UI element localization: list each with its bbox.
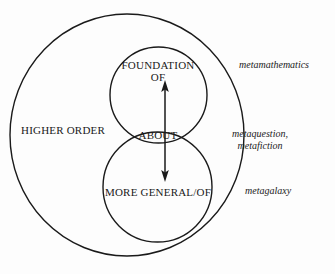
label-more-general-of: MORE GENERAL/OF bbox=[105, 186, 211, 198]
euler-diagram: HIGHER ORDER FOUNDATION OF ABOUT MORE GE… bbox=[0, 0, 335, 274]
label-higher-order: HIGHER ORDER bbox=[21, 124, 105, 136]
figure-canvas: HIGHER ORDER FOUNDATION OF ABOUT MORE GE… bbox=[0, 0, 335, 274]
label-foundation-of-line1: FOUNDATION bbox=[122, 59, 195, 71]
annotation-metagalaxy: metagalaxy bbox=[245, 185, 292, 196]
label-about: ABOUT bbox=[139, 129, 178, 141]
annotation-metamathematics: metamathematics bbox=[239, 59, 309, 70]
annotation-metafiction: metafiction bbox=[238, 140, 283, 151]
label-foundation-of-line2: OF bbox=[151, 71, 165, 83]
annotation-metaquestion: metaquestion, bbox=[232, 128, 288, 139]
